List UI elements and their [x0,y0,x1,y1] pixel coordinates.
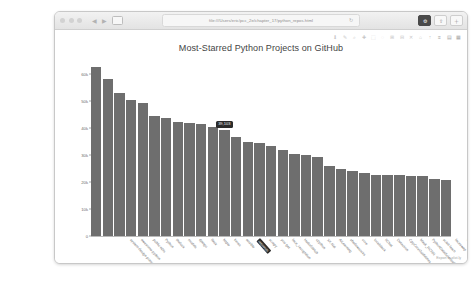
x-axis-tick-label[interactable]: httpie [222,238,231,247]
bar[interactable] [441,180,451,236]
x-axis-tick-label[interactable]: you-get [280,238,291,250]
y-axis-tick-label: 60k [81,71,88,76]
bar[interactable] [382,175,392,236]
maximize-button[interactable] [77,18,82,23]
y-axis-tick-label: 10k [81,206,88,211]
bar[interactable] [173,122,183,236]
x-axis-tick-label[interactable]: keras [233,238,242,247]
bar[interactable] [243,142,253,236]
bar[interactable] [359,173,369,236]
browser-window: ◀ ▶ file:///Users/eric/pcc_2e/chapter_17… [54,11,468,264]
bar[interactable] [231,137,241,236]
bar[interactable] [184,123,194,236]
navigation-controls: ◀ ▶ [92,16,123,25]
browser-titlebar: ◀ ▶ file:///Users/eric/pcc_2e/chapter_17… [55,12,467,30]
y-axis-tick-label: 40k [81,125,88,130]
bar[interactable] [301,155,311,236]
x-axis-tick-label[interactable]: ItChat [384,238,393,248]
bar-chart: Most-Starred Python Projects on GitHub S… [55,30,467,264]
bar[interactable] [149,116,159,236]
close-button[interactable] [60,18,65,23]
data-tooltip: 39,103 [216,121,233,127]
bar[interactable] [254,143,264,236]
x-axis-line [91,236,451,237]
export-to-plotly-link[interactable]: Export to plot.ly [436,256,461,260]
share-button[interactable]: ⇧ [434,15,447,26]
toolbar-right-buttons: ⚙ ⇧ ＋ [418,15,463,26]
extension-button[interactable]: ⚙ [418,15,431,26]
bar[interactable] [324,166,334,236]
bar[interactable] [91,67,101,236]
bar[interactable] [429,179,439,236]
bar[interactable] [278,150,288,236]
x-axis-tick-label[interactable]: scrapy [268,238,278,249]
bar[interactable] [371,175,381,236]
x-axis-tick-label[interactable]: flask [210,238,218,246]
bar[interactable] [126,100,136,236]
bar[interactable] [161,118,171,236]
x-axis-tick-label[interactable]: Python [164,238,174,249]
x-axis-tick-label[interactable]: XX-Net [326,238,337,249]
bar[interactable] [196,124,206,236]
minimize-button[interactable] [69,18,74,23]
bar[interactable] [289,154,299,236]
bar[interactable] [347,171,357,236]
address-bar[interactable]: file:///Users/eric/pcc_2e/chapter_17/pyt… [162,14,360,27]
bar[interactable] [336,169,346,236]
x-axis-tick-label[interactable]: ansible [245,238,256,249]
x-axis-tick-label[interactable]: core [361,238,369,246]
bar[interactable] [394,175,404,236]
x-axis-tick-label[interactable]: models [187,238,198,249]
bar[interactable] [266,146,276,236]
reload-icon[interactable]: ↻ [349,18,353,23]
x-axis-tick-label[interactable]: django [198,238,208,249]
y-axis-tick-label: 20k [81,179,88,184]
y-axis-tick-label: 50k [81,98,88,103]
y-axis-tick-label: 30k [81,152,88,157]
bar[interactable] [138,103,148,236]
window-controls [60,18,82,23]
sidebar-icon[interactable] [112,16,123,25]
bar[interactable] [312,157,322,236]
bar-series [91,60,451,236]
forward-icon[interactable]: ▶ [102,18,107,24]
x-axis-tick-label[interactable]: cpython [315,238,326,250]
bar[interactable] [103,79,113,236]
x-axis-tick-labels: system-design-primerawesome-pythonpublic… [91,238,451,239]
plot-area: Stars 010k20k30k40k50k60k 39,103 [91,60,451,237]
back-icon[interactable]: ◀ [92,18,97,24]
page-content: ⬇✎⌕✚⬚◌⊞⊟✕⌂↑≡▤▦ Most-Starred Python Proje… [55,30,467,264]
x-axis-tick-label[interactable]: thefuck [175,238,186,249]
bar[interactable] [114,93,124,237]
bar[interactable] [417,176,427,236]
bar[interactable] [406,176,416,236]
bar[interactable] [208,127,218,236]
new-tab-button[interactable]: ＋ [450,15,463,26]
bar[interactable] [219,130,229,236]
url-text: file:///Users/eric/pcc_2e/chapter_17/pyt… [209,18,313,23]
y-axis-tick-label: 0 [86,234,88,239]
chart-title: Most-Starred Python Projects on GitHub [55,43,467,53]
